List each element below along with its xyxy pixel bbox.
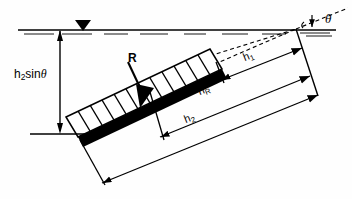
label-depth-h2sin-theta: h2sinθ (14, 67, 47, 82)
label-depth-theta: θ (41, 67, 47, 81)
technical-diagram (0, 0, 352, 199)
label-resultant-R: R (128, 51, 137, 65)
theta-angle-marker (296, 8, 348, 29)
free-surface (18, 20, 336, 36)
vertical-depth-dimension (57, 30, 63, 134)
label-resultant-text: R (128, 51, 137, 65)
label-depth-tail: sin (25, 67, 40, 81)
figure-canvas: h2sinθ R θ h1 hR h2 (0, 0, 352, 199)
label-depth-base: h (14, 67, 21, 81)
label-theta: θ (325, 11, 331, 27)
apex-witness-line (296, 29, 318, 96)
dimension-h1 (221, 48, 302, 80)
label-theta-text: θ (325, 11, 331, 26)
